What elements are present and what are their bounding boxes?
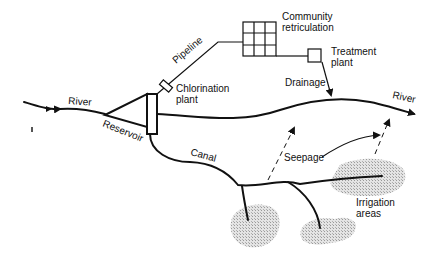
label-chlorination-plant: plant	[176, 94, 198, 105]
river-flow-arrow-icon	[46, 106, 52, 112]
label-retriculation: retriculation	[282, 22, 334, 33]
label-canal: Canal	[189, 146, 217, 163]
label-community: Community	[282, 11, 333, 22]
label-seepage: Seepage	[284, 152, 324, 163]
label-irrigation-areas: areas	[356, 208, 381, 219]
label-irrigation: Irrigation	[356, 197, 395, 208]
seepage-arrow-2	[375, 120, 389, 154]
label-drainage: Drainage	[285, 77, 326, 88]
seepage-pointer	[322, 135, 379, 157]
label-reservoir: Reservoir	[101, 118, 145, 144]
label-chlorination: Chlorination	[176, 83, 229, 94]
community-grid-icon	[243, 22, 276, 56]
stray-mark	[31, 127, 33, 132]
treatment-plant-icon	[308, 49, 321, 62]
label-river-in: River	[68, 95, 93, 108]
dam	[147, 94, 157, 134]
river-inflow	[24, 102, 105, 114]
label-river-out: River	[392, 89, 418, 105]
label-pipeline: Pipeline	[170, 34, 205, 66]
canal	[150, 134, 382, 186]
label-treatment: Treatment	[331, 46, 376, 57]
label-treatment-plant: plant	[331, 57, 353, 68]
water-system-diagram: River Reservoir Pipeline Chlorination pl…	[0, 0, 442, 263]
